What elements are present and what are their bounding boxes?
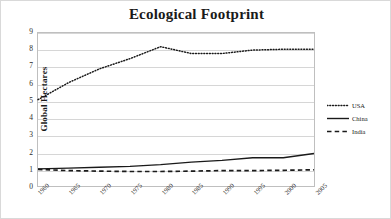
y-axis-tick-label: 8 (11, 45, 33, 53)
legend-label: USA (352, 101, 365, 110)
legend-label: China (352, 114, 368, 123)
chart-title: Ecological Footprint (1, 6, 391, 23)
plot-wrapper: Global Hectares (37, 32, 315, 187)
legend-item-india[interactable]: India (327, 125, 387, 138)
chart-screenshot: Ecological Footprint 0123456789 Global H… (0, 0, 391, 219)
y-axis-tick-label: 0 (11, 183, 33, 191)
y-axis-tick-label: 3 (11, 131, 33, 139)
legend-swatch-solid-icon (327, 114, 349, 123)
legend-swatch-dotted-icon (327, 101, 349, 110)
y-axis-tick-label: 9 (11, 28, 33, 36)
series-line-usa (38, 47, 314, 100)
legend-item-china[interactable]: China (327, 112, 387, 125)
legend-item-usa[interactable]: USA (327, 99, 387, 112)
plot-area (37, 32, 315, 187)
series-line-china (38, 154, 314, 169)
x-axis-tick-label: 2005 (314, 167, 344, 197)
y-axis-tick-label: 7 (11, 62, 33, 70)
y-axis-title: Global Hectares (39, 24, 49, 174)
y-axis-tick-label: 6 (11, 80, 33, 88)
y-axis-tick-label: 5 (11, 97, 33, 105)
legend-label: India (352, 127, 365, 136)
series-lines (38, 33, 314, 187)
y-axis-tick-label: 1 (11, 166, 33, 174)
y-axis-tick-label: 4 (11, 114, 33, 122)
y-axis-tick-label: 2 (11, 149, 33, 157)
chart-legend: USAChinaIndia (327, 99, 387, 138)
legend-swatch-dashed-icon (327, 127, 349, 136)
